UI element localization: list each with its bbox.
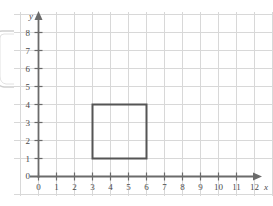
x-tick-label: 0: [36, 182, 41, 192]
y-tick-label: 8: [26, 28, 31, 38]
y-tick-label: 3: [26, 118, 31, 128]
y-tick-label: 7: [26, 46, 31, 56]
x-tick-label: 11: [232, 182, 241, 192]
y-tick-label: 2: [26, 136, 31, 146]
left-tab-decoration: [0, 31, 14, 87]
coordinate-plane-svg: 0 1 2 3 4 5 6 7 8 9 10 11 12 0 1 2 3 4 5…: [0, 0, 273, 206]
coordinate-plane-figure: 0 1 2 3 4 5 6 7 8 9 10 11 12 0 1 2 3 4 5…: [0, 0, 273, 206]
square-shape: [93, 105, 147, 159]
x-tick-label: 10: [214, 182, 224, 192]
x-tick-label: 6: [144, 182, 149, 192]
x-tick-label: 3: [90, 182, 95, 192]
y-tick-label: 0: [26, 171, 31, 181]
y-axis: [35, 11, 43, 178]
x-tick-label: 4: [108, 182, 113, 192]
x-tick-labels: 0 1 2 3 4 5 6 7 8 9 10 11 12: [36, 182, 259, 192]
y-tick-label: 4: [26, 100, 31, 110]
x-tick-label: 7: [162, 182, 167, 192]
x-tick-label: 2: [72, 182, 77, 192]
x-tick-label: 12: [250, 182, 259, 192]
x-tick-label: 5: [126, 182, 131, 192]
y-tick-labels: 0 1 2 3 4 5 6 7 8: [26, 28, 31, 182]
y-tick-label: 1: [26, 154, 31, 164]
y-axis-label: y: [28, 11, 33, 21]
x-axis: [30, 173, 262, 181]
x-tick-label: 9: [198, 182, 203, 192]
x-tick-label: 8: [180, 182, 185, 192]
y-tick-label: 5: [26, 82, 31, 92]
x-axis-label: x: [263, 182, 268, 192]
y-tick-label: 6: [26, 64, 31, 74]
x-tick-label: 1: [54, 182, 59, 192]
